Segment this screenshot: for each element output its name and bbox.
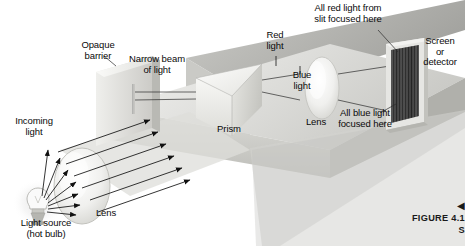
caption-lead-word: S <box>459 225 465 235</box>
label-all-blue-light: All blue light focused here <box>322 108 408 129</box>
caption-marker: ◀ <box>457 200 465 211</box>
caption-figure-number: FIGURE 4.1 <box>412 213 465 223</box>
label-narrow-beam: Narrow beam of light <box>114 54 200 75</box>
label-lens-left: Lens <box>87 208 125 219</box>
label-red-light: Red light <box>253 30 297 51</box>
label-lens-right: Lens <box>300 117 332 128</box>
figure-caption: ◀ FIGURE 4.1 S spectroscope. A thin beam… <box>300 164 465 246</box>
figure-canvas: Opaque barrier Narrow beam of light Red … <box>0 0 465 246</box>
label-all-red-light: All red light from slit focused here <box>296 3 400 24</box>
caption-headline: ◀ FIGURE 4.1 S <box>300 188 465 246</box>
label-blue-light: Blue light <box>280 70 324 91</box>
label-prism: Prism <box>205 124 253 135</box>
label-incoming-light: Incoming light <box>2 116 66 137</box>
label-light-source: Light source (hot bulb) <box>0 218 92 239</box>
label-screen-detector: Screen or detector <box>414 36 465 68</box>
